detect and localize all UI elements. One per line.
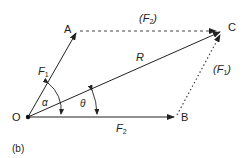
point-label-o: O <box>12 112 21 123</box>
angle-label-theta: θ <box>80 99 85 109</box>
label-f2-paren-text: (F <box>139 12 149 24</box>
point-label-c: C <box>228 22 236 33</box>
label-f1-paren-close: ) <box>227 63 231 75</box>
label-f1-sub: 1 <box>45 71 49 78</box>
label-f1: F1 <box>38 66 49 78</box>
label-f2-sub: 2 <box>123 128 127 135</box>
label-r: R <box>136 52 144 63</box>
label-f1-paren: (F1) <box>213 64 231 76</box>
vector-f1 <box>28 33 76 117</box>
vector-r <box>28 32 220 117</box>
angle-label-alpha: α <box>42 98 48 108</box>
label-f2-paren-close: ) <box>153 12 157 24</box>
point-label-b: B <box>181 112 188 123</box>
figure-caption: (b) <box>12 144 24 154</box>
label-f1-paren-text: (F <box>213 63 223 75</box>
label-f2-text: F <box>116 122 123 134</box>
origin-point <box>26 115 30 119</box>
angle-theta-arc <box>92 90 97 114</box>
label-f2: F2 <box>116 123 127 135</box>
point-label-a: A <box>64 24 71 35</box>
label-f1-text: F <box>38 65 45 77</box>
angle-alpha-arc <box>48 83 61 114</box>
label-f2-paren: (F2) <box>139 13 157 25</box>
